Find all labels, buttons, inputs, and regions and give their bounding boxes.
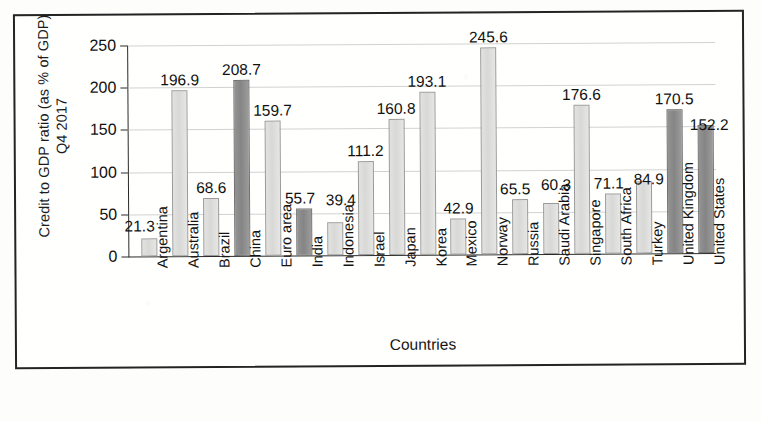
y-axis-title-line1: Credit to GDP ratio (as % of GDP) <box>35 14 52 237</box>
bar-value-label: 160.8 <box>376 101 416 116</box>
y-axis-title-line2: Q4 2017 <box>52 1 72 251</box>
x-axis-category-label: Japan <box>403 227 418 267</box>
y-axis-tick <box>121 257 128 258</box>
bar-value-label: 196.9 <box>160 72 200 87</box>
x-axis-category-label: Indonesia <box>341 204 356 267</box>
figure-frame: Credit to GDP ratio (as % of GDP) Q4 201… <box>13 10 746 369</box>
x-axis-category-label: Australia <box>186 212 201 269</box>
y-axis-tick-label: 150 <box>90 122 117 138</box>
bar-value-label: 55.7 <box>280 190 320 205</box>
gridline <box>128 42 715 47</box>
y-axis-tick <box>121 214 128 215</box>
chart-page: Credit to GDP ratio (as % of GDP) Q4 201… <box>0 0 761 421</box>
bar-value-label: 170.5 <box>654 91 694 106</box>
y-axis-tick-label: 100 <box>90 164 117 180</box>
x-axis-category-label: India <box>310 236 325 268</box>
y-axis-tick <box>120 46 127 47</box>
bar-value-label: 65.5 <box>495 181 535 196</box>
y-axis-tick <box>120 88 127 89</box>
x-axis-category-label: China <box>248 230 263 268</box>
x-axis-category-label: Mexico <box>465 220 480 266</box>
x-axis-category-label: Norway <box>495 217 510 266</box>
x-axis-category-label: Singapore <box>588 200 603 266</box>
x-axis-category-label: United Kingdom <box>680 162 696 265</box>
x-axis-category-label: United States <box>711 178 727 265</box>
bar-value-label: 193.1 <box>407 74 447 89</box>
bar-value-label: 208.7 <box>221 62 261 77</box>
x-axis-category-label: Russia <box>526 222 541 266</box>
y-axis-tick-label: 250 <box>89 38 116 54</box>
plot-area: 05010015020025021.3Argentina196.9Austral… <box>127 42 716 258</box>
y-axis-tick <box>121 172 128 173</box>
bar-value-label: 68.6 <box>191 180 231 195</box>
y-axis-tick-label: 200 <box>90 80 117 96</box>
x-axis-title: Countries <box>129 334 717 356</box>
y-axis-tick <box>121 130 128 131</box>
x-axis-category-label: Saudi Arabia <box>557 184 573 266</box>
bar-value-label: 159.7 <box>252 103 292 118</box>
bar-value-label: 111.2 <box>345 143 385 158</box>
bar-value-label: 84.9 <box>629 172 669 187</box>
x-axis-category-label: Brazil <box>217 232 232 268</box>
x-axis-category-label: Korea <box>434 228 449 267</box>
bar-value-label: 176.6 <box>561 87 601 102</box>
y-axis-title: Credit to GDP ratio (as % of GDP) Q4 201… <box>34 1 72 251</box>
x-axis-category-label: Israel <box>372 231 387 267</box>
bar-value-label: 152.2 <box>689 116 729 131</box>
y-axis-tick-label: 0 <box>108 249 117 265</box>
y-axis-tick-label: 50 <box>99 206 117 222</box>
x-axis-category-label: South Africa <box>619 187 634 265</box>
x-axis-category-label: Argentina <box>156 206 171 268</box>
x-axis-category-label: Euro area <box>279 204 294 268</box>
x-axis-category-label: Turkey <box>650 221 665 265</box>
bar-value-label: 42.9 <box>438 200 478 215</box>
bar-value-label: 245.6 <box>468 29 508 44</box>
